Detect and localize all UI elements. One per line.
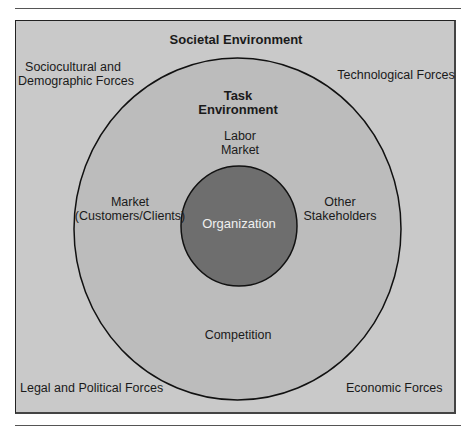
other-line1: Other — [300, 195, 380, 209]
competition-label: Competition — [180, 328, 296, 342]
sociocultural-line2: Demographic Forces — [18, 74, 128, 88]
labor-line1: Labor — [200, 129, 280, 143]
other-stakeholders-label: Other Stakeholders — [300, 195, 380, 223]
task-environment-title: Task Environment — [180, 89, 296, 117]
market-line1: Market — [74, 195, 186, 209]
bottom-rule — [15, 425, 461, 426]
organization-label: Organization — [185, 217, 293, 231]
societal-environment-title: Societal Environment — [0, 33, 472, 47]
legal-political-forces-label: Legal and Political Forces — [20, 381, 162, 395]
market-line2: (Customers/Clients) — [74, 209, 186, 223]
economic-forces-label: Economic Forces — [346, 381, 442, 395]
technological-forces-label: Technological Forces — [336, 68, 456, 82]
sociocultural-forces-label: Sociocultural and Demographic Forces — [18, 60, 128, 88]
task-title-line2: Environment — [180, 103, 296, 117]
other-line2: Stakeholders — [300, 209, 380, 223]
task-title-line1: Task — [180, 89, 296, 103]
labor-line2: Market — [200, 143, 280, 157]
labor-market-label: Labor Market — [200, 129, 280, 157]
market-label: Market (Customers/Clients) — [74, 195, 186, 223]
sociocultural-line1: Sociocultural and — [18, 60, 128, 74]
